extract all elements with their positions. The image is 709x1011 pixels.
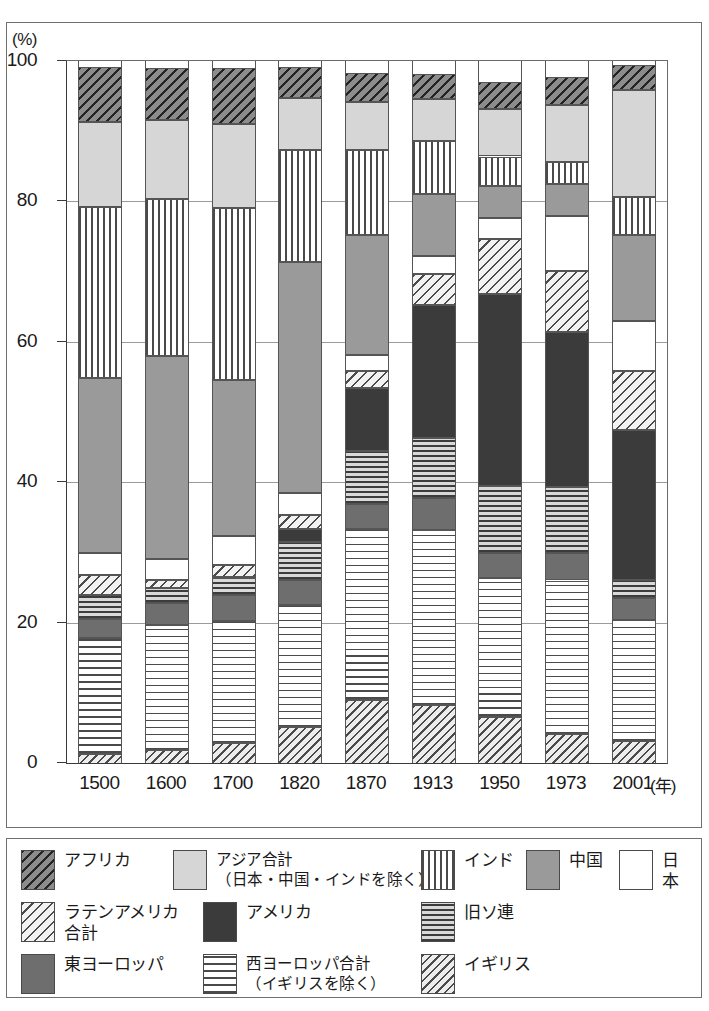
legend-item-japan[interactable]: 日本	[619, 849, 687, 892]
bar-segment-uk[interactable]	[146, 750, 188, 763]
bar-segment-eeurope[interactable]	[413, 498, 455, 530]
bar-segment-india[interactable]	[346, 150, 388, 235]
bar-segment-weurope[interactable]	[613, 620, 655, 741]
bar-segment-asia[interactable]	[213, 124, 255, 208]
bar-segment-uk[interactable]	[546, 734, 588, 763]
bar-segment-uk[interactable]	[613, 741, 655, 763]
legend-item-weurope[interactable]: 西ヨーロッパ合計 （イギリスを除く）	[203, 953, 386, 994]
bar-segment-usa[interactable]	[346, 388, 388, 450]
bar-segment-japan[interactable]	[346, 355, 388, 371]
bar-segment-japan[interactable]	[146, 559, 188, 579]
legend-item-latin[interactable]: ラテンアメリカ 合計	[21, 901, 179, 944]
bar-segment-weurope[interactable]	[479, 578, 521, 718]
bar-segment-ussr[interactable]	[546, 487, 588, 553]
bar-segment-eeurope[interactable]	[279, 580, 321, 605]
bar-segment-china[interactable]	[546, 184, 588, 216]
bar-segment-uk[interactable]	[479, 717, 521, 763]
bar-segment-ussr[interactable]	[479, 486, 521, 553]
bar-segment-india[interactable]	[279, 150, 321, 262]
bar-segment-ussr[interactable]	[346, 451, 388, 504]
legend-item-africa[interactable]: アフリカ	[21, 849, 130, 890]
bar-segment-weurope[interactable]	[79, 638, 121, 754]
bar-segment-japan[interactable]	[613, 321, 655, 371]
bar-segment-ussr[interactable]	[279, 542, 321, 580]
legend-item-eeurope[interactable]: 東ヨーロッパ	[21, 953, 163, 994]
bar-segment-weurope[interactable]	[346, 529, 388, 700]
bar-segment-africa[interactable]	[213, 68, 255, 124]
bar-segment-uk[interactable]	[213, 743, 255, 763]
legend-item-uk[interactable]: イギリス	[421, 953, 530, 994]
bar-segment-eeurope[interactable]	[613, 598, 655, 620]
bar-segment-india[interactable]	[413, 141, 455, 194]
bar-segment-africa[interactable]	[413, 74, 455, 99]
bar-segment-india[interactable]	[613, 197, 655, 235]
bar-segment-latin[interactable]	[479, 239, 521, 294]
bar-segment-latin[interactable]	[546, 271, 588, 332]
bar-segment-eeurope[interactable]	[346, 504, 388, 529]
bar-segment-africa[interactable]	[613, 65, 655, 90]
legend-item-india[interactable]: インド	[421, 849, 514, 890]
bar-segment-latin[interactable]	[279, 515, 321, 530]
legend-item-ussr[interactable]: 旧ソ連	[421, 901, 514, 942]
bar-segment-latin[interactable]	[413, 274, 455, 305]
bar-segment-ussr[interactable]	[146, 588, 188, 603]
bar-segment-japan[interactable]	[413, 256, 455, 274]
bar-segment-asia[interactable]	[613, 90, 655, 197]
bar-segment-usa[interactable]	[613, 430, 655, 580]
legend-item-usa[interactable]: アメリカ	[203, 901, 311, 942]
bar-1600[interactable]	[145, 61, 189, 763]
bar-segment-china[interactable]	[413, 194, 455, 256]
bar-segment-japan[interactable]	[279, 493, 321, 514]
bar-segment-japan[interactable]	[479, 218, 521, 239]
bar-segment-latin[interactable]	[213, 565, 255, 577]
bar-segment-uk[interactable]	[79, 754, 121, 763]
bar-segment-india[interactable]	[479, 157, 521, 186]
bar-segment-eeurope[interactable]	[146, 603, 188, 625]
bar-segment-asia[interactable]	[413, 99, 455, 141]
bar-segment-weurope[interactable]	[146, 625, 188, 750]
bar-segment-china[interactable]	[346, 235, 388, 355]
bar-segment-uk[interactable]	[413, 705, 455, 763]
bar-segment-china[interactable]	[213, 380, 255, 537]
bar-segment-eeurope[interactable]	[79, 619, 121, 638]
bar-segment-ussr[interactable]	[79, 595, 121, 619]
bar-1913[interactable]	[412, 61, 456, 763]
bar-segment-africa[interactable]	[346, 73, 388, 102]
bar-segment-usa[interactable]	[279, 529, 321, 542]
bar-1973[interactable]	[545, 61, 589, 763]
bar-segment-india[interactable]	[546, 162, 588, 184]
bar-segment-weurope[interactable]	[546, 581, 588, 734]
bar-1950[interactable]	[478, 61, 522, 763]
bar-segment-asia[interactable]	[479, 109, 521, 157]
bar-segment-ussr[interactable]	[213, 578, 255, 596]
bar-segment-usa[interactable]	[479, 294, 521, 486]
bar-segment-asia[interactable]	[346, 102, 388, 150]
bar-1500[interactable]	[78, 61, 122, 763]
legend-item-china[interactable]: 中国	[526, 849, 602, 890]
bar-segment-japan[interactable]	[546, 216, 588, 271]
bar-1700[interactable]	[212, 61, 256, 763]
bar-segment-india[interactable]	[213, 208, 255, 379]
bar-segment-japan[interactable]	[79, 553, 121, 575]
bar-segment-eeurope[interactable]	[213, 595, 255, 620]
bar-segment-india[interactable]	[146, 199, 188, 356]
bar-segment-weurope[interactable]	[279, 605, 321, 726]
bar-segment-eeurope[interactable]	[546, 553, 588, 580]
bar-segment-asia[interactable]	[79, 122, 121, 207]
bar-segment-usa[interactable]	[546, 332, 588, 487]
bar-segment-china[interactable]	[146, 356, 188, 560]
bar-2001[interactable]	[612, 61, 656, 763]
legend-item-asia[interactable]: アジア合計 （日本・中国・インドを除く）	[173, 849, 433, 890]
bar-segment-weurope[interactable]	[213, 621, 255, 744]
bar-segment-china[interactable]	[79, 378, 121, 553]
bar-segment-latin[interactable]	[146, 580, 188, 588]
bar-segment-asia[interactable]	[279, 98, 321, 150]
bar-segment-china[interactable]	[279, 262, 321, 493]
bar-segment-weurope[interactable]	[413, 530, 455, 705]
bar-segment-africa[interactable]	[279, 67, 321, 99]
bar-segment-ussr[interactable]	[413, 438, 455, 498]
bar-segment-china[interactable]	[479, 186, 521, 218]
bar-1870[interactable]	[345, 61, 389, 763]
bar-segment-africa[interactable]	[546, 77, 588, 104]
bar-segment-latin[interactable]	[346, 371, 388, 388]
